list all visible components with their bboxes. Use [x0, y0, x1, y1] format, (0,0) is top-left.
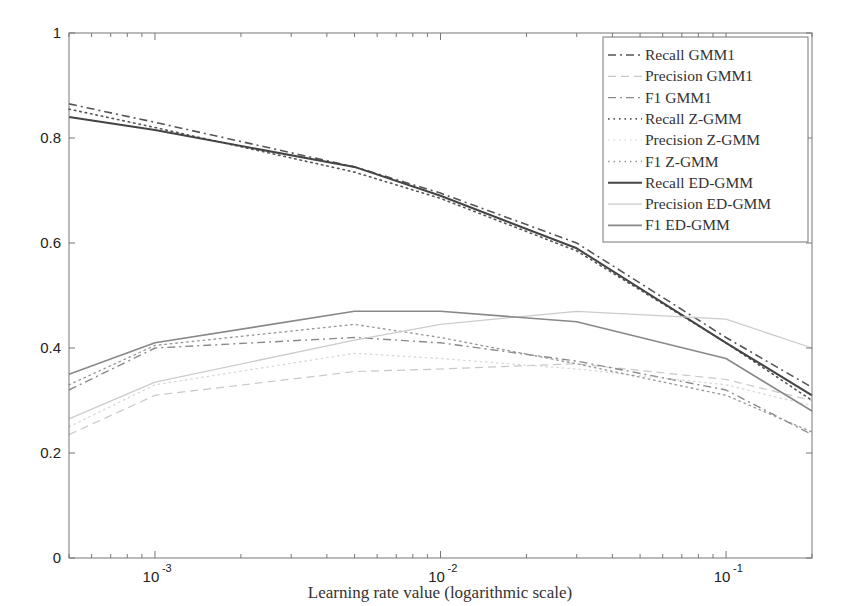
y-tick-label: 0.2 [40, 444, 61, 461]
series-line [69, 324, 812, 432]
legend-label: Precision Z-GMM [645, 131, 760, 148]
legend-label: Recall ED-GMM [645, 174, 753, 191]
legend-label: Recall GMM1 [645, 46, 735, 63]
legend-label: Precision ED-GMM [645, 195, 771, 212]
x-axis-title: Learning rate value (logarithmic scale) [308, 583, 572, 602]
y-tick-label: 0 [53, 549, 61, 566]
series-line [69, 353, 812, 427]
x-tick-exponent: -3 [162, 562, 172, 574]
y-tick-label: 0.8 [40, 129, 61, 146]
y-tick-label: 0.4 [40, 339, 61, 356]
y-tick-label: 0.6 [40, 234, 61, 251]
x-tick-label: 10 [714, 568, 731, 585]
x-tick-exponent: -2 [448, 562, 458, 574]
legend-label: Precision GMM1 [645, 67, 753, 84]
legend-label: Recall Z-GMM [645, 110, 742, 127]
x-tick-exponent: -1 [733, 562, 743, 574]
legend-label: F1 Z-GMM [645, 153, 719, 170]
series-line [69, 364, 812, 435]
legend: Recall GMM1Precision GMM1F1 GMM1Recall Z… [603, 37, 808, 242]
legend-label: F1 GMM1 [645, 89, 712, 106]
legend-label: F1 ED-GMM [645, 216, 730, 233]
x-tick-label: 10 [143, 568, 160, 585]
line-chart: 00.20.40.60.81 10-310-210-1 Learning rat… [0, 0, 844, 606]
y-tick-label: 1 [53, 24, 61, 41]
